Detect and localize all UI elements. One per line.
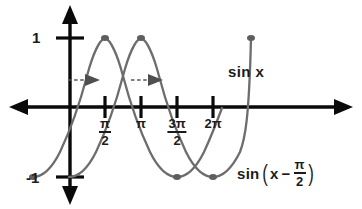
shifted-label-fraction: π 2 (294, 158, 306, 188)
sin-shifted-trough-marker (209, 174, 217, 180)
y-axis-arrow-down (62, 186, 78, 205)
fraction-denominator: 2 (295, 175, 305, 188)
shifted-label-close-paren: ) (308, 161, 314, 185)
x-axis-arrow-right (334, 99, 353, 115)
shifted-label-minus: − (282, 166, 291, 181)
fraction-3pi-over-2: 3π 2 (167, 117, 186, 147)
x-axis-label-pi-over-2: π 2 (99, 117, 111, 147)
x-axis-label-2pi: 2π (204, 117, 221, 130)
fraction-numerator: 3π (167, 117, 186, 130)
sin-x-peak-marker (101, 35, 109, 41)
sin-shifted-peak-marker (137, 35, 145, 41)
y-axis-label-one: 1 (32, 30, 40, 45)
shifted-label-prefix: sin (237, 166, 260, 181)
x-axis (9, 99, 353, 115)
fraction-denominator: 2 (172, 134, 181, 147)
curve-label-sin-shifted: sin ( x − π 2 ) (237, 158, 316, 188)
shifted-label-open-paren: ( (262, 161, 268, 185)
fraction-denominator: 2 (100, 134, 109, 147)
sin-x-trough-marker (173, 174, 181, 180)
x-axis-label-pi: π (136, 117, 146, 130)
y-axis-arrow-up (62, 5, 78, 24)
phase-shift-arrow-1-head (85, 74, 100, 86)
trigonometry-graph-figure: 1 -1 π 2 π 3π 2 2π sin x sin ( x − π 2 ) (0, 0, 362, 209)
y-axis-label-negative-one: -1 (26, 170, 39, 185)
shifted-label-variable: x (270, 166, 279, 181)
fraction-numerator: π (99, 117, 111, 130)
fraction-numerator: π (294, 158, 306, 171)
sin-shifted-end-marker (247, 35, 255, 41)
x-axis-label-3pi-over-2: 3π 2 (167, 117, 186, 147)
fraction-pi-over-2: π 2 (99, 117, 111, 147)
curve-label-sin-x: sin x (228, 64, 264, 79)
x-axis-arrow-left (9, 99, 28, 115)
